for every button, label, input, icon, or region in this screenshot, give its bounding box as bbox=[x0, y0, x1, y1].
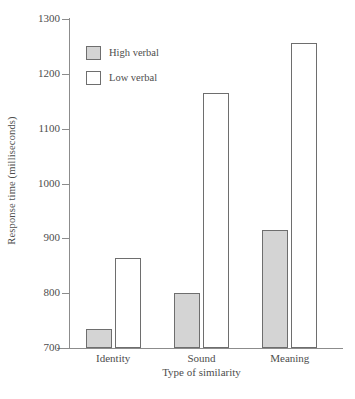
bar-sound-high-verbal[interactable] bbox=[174, 293, 200, 348]
legend-item-label: Low verbal bbox=[109, 72, 157, 84]
y-axis-tick-label: 1200 bbox=[20, 68, 60, 79]
bar-identity-low-verbal[interactable] bbox=[115, 258, 141, 348]
y-axis-title: Response time (milliseconds) bbox=[0, 0, 22, 360]
x-axis-line bbox=[57, 348, 343, 349]
legend-swatch-icon bbox=[86, 71, 101, 85]
legend-item-low-verbal[interactable]: Low verbal bbox=[86, 67, 206, 89]
x-axis-label-meaning: Meaning bbox=[245, 352, 335, 364]
y-axis-tick-label: 1100 bbox=[20, 123, 60, 134]
bar-identity-high-verbal[interactable] bbox=[86, 329, 112, 348]
x-axis-title: Type of similarity bbox=[69, 366, 334, 378]
legend-item-label: High verbal bbox=[109, 47, 159, 59]
y-axis-tick-label: 1300 bbox=[20, 13, 60, 24]
x-axis-label-sound: Sound bbox=[157, 352, 247, 364]
y-axis-tick-label: 1000 bbox=[20, 178, 60, 189]
y-axis-tick bbox=[62, 348, 70, 349]
bar-chart-figure: Response time (milliseconds) 70080090010… bbox=[0, 0, 355, 399]
legend-item-high-verbal[interactable]: High verbal bbox=[86, 42, 206, 64]
chart-legend: High verbalLow verbal bbox=[86, 42, 206, 92]
bar-sound-low-verbal[interactable] bbox=[203, 93, 229, 348]
y-axis-tick-label: 900 bbox=[20, 232, 60, 243]
bar-meaning-low-verbal[interactable] bbox=[291, 43, 317, 348]
y-axis-title-text: Response time (milliseconds) bbox=[6, 116, 17, 244]
y-axis-tick-label: 700 bbox=[20, 342, 60, 353]
x-axis-label-identity: Identity bbox=[68, 352, 158, 364]
y-axis-tick-label: 800 bbox=[20, 287, 60, 298]
legend-swatch-icon bbox=[86, 46, 101, 60]
bar-meaning-high-verbal[interactable] bbox=[262, 230, 288, 348]
